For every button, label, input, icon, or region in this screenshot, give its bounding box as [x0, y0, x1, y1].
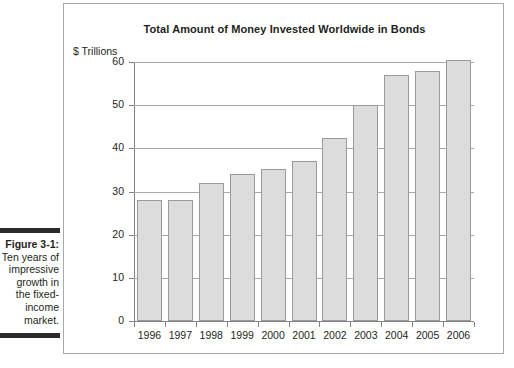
caption-text: Figure 3-1: Ten years of impressive grow…	[0, 233, 62, 330]
bar-1997	[168, 200, 193, 321]
bar-series	[134, 62, 474, 321]
y-axis-tick-label: 20	[78, 228, 124, 240]
y-axis-tick-label: 40	[78, 141, 124, 153]
x-axis-tick	[227, 322, 228, 327]
x-axis-tick	[319, 322, 320, 327]
y-axis-tick	[129, 278, 134, 279]
x-axis-tick	[474, 322, 475, 327]
bar-2006	[446, 60, 471, 321]
figure-caption-block: Figure 3-1: Ten years of impressive grow…	[0, 228, 62, 338]
x-axis-tick	[258, 322, 259, 327]
bar-2004	[384, 75, 409, 321]
bar-1996	[137, 200, 162, 321]
bar-2003	[353, 105, 378, 321]
y-axis-tick	[129, 235, 134, 236]
x-axis-tick	[134, 322, 135, 327]
bar-1998	[199, 183, 224, 321]
y-axis-tick	[129, 192, 134, 193]
x-axis-tick-label-2006: 2006	[439, 329, 479, 341]
bar-2001	[292, 161, 317, 321]
caption-body: Ten years of impressive growth in the fi…	[0, 251, 59, 327]
x-axis-tick	[443, 322, 444, 327]
caption-rule-bottom	[0, 333, 60, 338]
y-axis-tick-label: 50	[78, 98, 124, 110]
x-axis-tick	[350, 322, 351, 327]
y-axis-tick	[129, 62, 134, 63]
x-axis-tick	[289, 322, 290, 327]
y-axis-tick-label: 60	[78, 55, 124, 67]
y-axis-tick-label: 10	[78, 271, 124, 283]
y-axis-tick	[129, 105, 134, 106]
y-axis-tick-label: 0	[78, 314, 124, 326]
bar-2002	[322, 138, 347, 321]
plot-area	[134, 62, 474, 321]
x-axis-tick	[165, 322, 166, 327]
y-axis-tick-label: 30	[78, 185, 124, 197]
x-axis-tick	[196, 322, 197, 327]
bar-2005	[415, 71, 440, 321]
bar-1999	[230, 174, 255, 321]
x-axis-tick	[381, 322, 382, 327]
gridline	[134, 321, 474, 322]
bar-2000	[261, 169, 286, 321]
x-axis-tick	[412, 322, 413, 327]
figure-frame: Total Amount of Money Invested Worldwide…	[63, 3, 504, 354]
chart-title: Total Amount of Money Invested Worldwide…	[64, 23, 505, 35]
y-axis-tick	[129, 148, 134, 149]
caption-figure-label: Figure 3-1:	[0, 238, 59, 251]
